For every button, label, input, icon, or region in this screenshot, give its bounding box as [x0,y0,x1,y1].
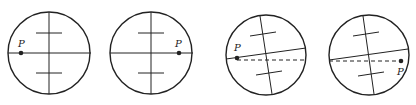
vertical-crosshair [260,16,272,94]
reticle-panel-1: P [8,12,91,94]
point-label: P [396,66,404,77]
point-label: P [233,42,241,53]
reticle-panel-2: P [110,12,193,94]
point-label: P [17,38,25,49]
target-point-p [399,59,404,64]
target-point-p [177,51,182,56]
reticle-diagram: PPPP [0,0,416,105]
reticle-panel-3: P [226,15,306,95]
target-point-p [19,51,24,56]
target-point-p [235,56,240,61]
point-label: P [174,38,182,49]
reticle-panel-4: P [329,15,409,95]
